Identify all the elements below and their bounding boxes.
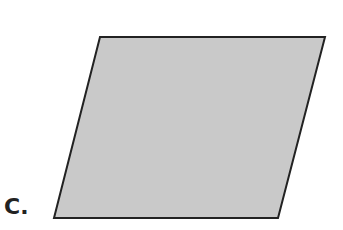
parallelogram-figure [0, 0, 343, 230]
option-label: C. [4, 195, 29, 219]
parallelogram-shape [54, 37, 325, 218]
diagram-canvas: C. [0, 0, 343, 230]
